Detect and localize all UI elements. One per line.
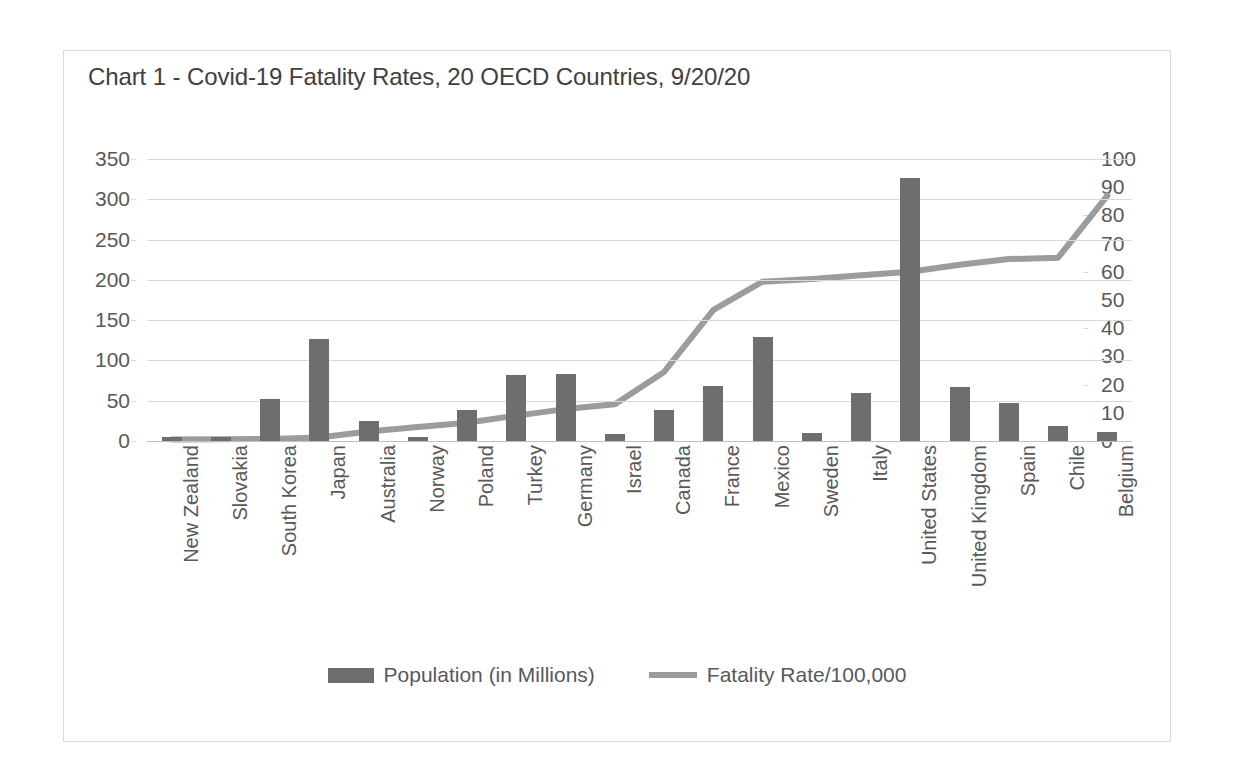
y-tick-mark-left [131, 280, 136, 281]
x-label-turkey: Turkey [524, 445, 547, 505]
x-axis-category-labels: New ZealandSlovakiaSouth KoreaJapanAustr… [147, 445, 1132, 645]
x-label-mexico: Mexico [771, 445, 794, 508]
gridline [147, 280, 1132, 281]
legend-item-population[interactable]: Population (in Millions) [328, 663, 595, 687]
x-label-france: France [721, 445, 744, 507]
bar-spain[interactable] [999, 403, 1019, 441]
gridline [147, 240, 1132, 241]
y-tick-mark-left [131, 401, 136, 402]
y-axis-left: 350300250200150100500 [64, 159, 136, 441]
x-label-sweden: Sweden [820, 445, 843, 517]
bar-united-kingdom[interactable] [950, 387, 970, 441]
gridline [147, 401, 1132, 402]
y-tick-mark-left [131, 441, 136, 442]
bar-chile[interactable] [1048, 426, 1068, 441]
bar-turkey[interactable] [506, 375, 526, 441]
y-tick-mark-left [131, 240, 136, 241]
x-label-new-zealand: New Zealand [180, 445, 203, 563]
y-tick-left-150: 150 [95, 308, 130, 332]
x-label-slovakia: Slovakia [229, 445, 252, 521]
chart-container: Chart 1 - Covid-19 Fatality Rates, 20 OE… [63, 50, 1171, 742]
plot-area [147, 159, 1132, 441]
bar-united-states[interactable] [900, 178, 920, 441]
bar-canada[interactable] [654, 410, 674, 441]
bar-swatch-icon [328, 668, 374, 683]
y-tick-left-300: 300 [95, 187, 130, 211]
y-tick-left-250: 250 [95, 228, 130, 252]
x-label-israel: Israel [623, 445, 646, 494]
bar-mexico[interactable] [753, 337, 773, 441]
y-tick-mark-left [131, 360, 136, 361]
bar-slovakia[interactable] [211, 437, 231, 441]
x-label-japan: Japan [327, 445, 350, 500]
gridline [147, 199, 1132, 200]
bar-norway[interactable] [408, 437, 428, 441]
bar-france[interactable] [703, 386, 723, 441]
gridline [147, 159, 1132, 160]
bar-sweden[interactable] [802, 433, 822, 441]
bar-south-korea[interactable] [260, 399, 280, 441]
x-label-poland: Poland [475, 445, 498, 507]
bar-italy[interactable] [851, 393, 871, 441]
y-tick-mark-left [131, 199, 136, 200]
legend-item-fatality-rate[interactable]: Fatality Rate/100,000 [649, 663, 907, 687]
y-tick-mark-left [131, 159, 136, 160]
x-label-united-states: United States [918, 445, 941, 565]
bar-belgium[interactable] [1097, 432, 1117, 441]
fatality-rate-line [147, 159, 1132, 441]
gridline [147, 320, 1132, 321]
y-tick-mark-left [131, 320, 136, 321]
bar-new-zealand[interactable] [162, 437, 182, 441]
x-label-chile: Chile [1066, 445, 1089, 491]
bar-poland[interactable] [457, 410, 477, 441]
x-label-germany: Germany [574, 445, 597, 527]
line-swatch-icon [649, 672, 697, 678]
x-label-norway: Norway [426, 445, 449, 513]
y-tick-left-50: 50 [107, 389, 130, 413]
x-label-australia: Australia [377, 445, 400, 523]
chart-legend: Population (in Millions) Fatality Rate/1… [64, 663, 1170, 687]
legend-label-fatality-rate: Fatality Rate/100,000 [707, 663, 907, 687]
chart-title: Chart 1 - Covid-19 Fatality Rates, 20 OE… [88, 63, 750, 91]
bar-australia[interactable] [359, 421, 379, 441]
bar-japan[interactable] [309, 339, 329, 441]
x-label-spain: Spain [1017, 445, 1040, 496]
bar-israel[interactable] [605, 434, 625, 441]
y-tick-left-0: 0 [118, 429, 130, 453]
x-label-canada: Canada [672, 445, 695, 515]
y-tick-left-350: 350 [95, 147, 130, 171]
x-label-italy: Italy [869, 445, 892, 482]
bar-germany[interactable] [556, 374, 576, 441]
legend-label-population: Population (in Millions) [384, 663, 595, 687]
gridline [147, 360, 1132, 361]
axis-baseline [147, 441, 1132, 442]
x-label-united-kingdom: United Kingdom [968, 445, 991, 587]
x-label-belgium: Belgium [1115, 445, 1138, 517]
x-label-south-korea: South Korea [278, 445, 301, 556]
y-tick-left-100: 100 [95, 348, 130, 372]
y-tick-left-200: 200 [95, 268, 130, 292]
